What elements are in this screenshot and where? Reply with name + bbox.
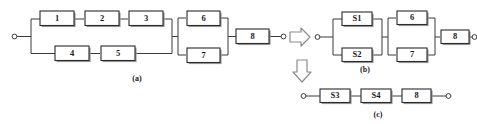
block-a-6[interactable]: 6 [187, 11, 222, 27]
block-c-8-label: 8 [414, 90, 418, 100]
block-a-8-label: 8 [250, 31, 254, 41]
terminal-a-input [12, 34, 17, 39]
down-arrow-icon [293, 60, 311, 82]
block-b-s1[interactable]: S1 [342, 12, 374, 27]
block-a-5[interactable]: 5 [101, 46, 137, 62]
right-arrow-icon [290, 28, 310, 46]
reliability-block-diagram-figure: 1 2 3 4 [0, 0, 477, 124]
block-a-6-label: 6 [201, 13, 205, 23]
block-b-s1-label: S1 [353, 13, 362, 23]
block-c-s3-label: S3 [331, 90, 340, 100]
block-b-8-label: 8 [453, 31, 457, 41]
block-c-s4[interactable]: S4 [361, 89, 393, 104]
caption-c: (c) [374, 110, 383, 119]
terminal-a-output [281, 34, 286, 39]
block-a-4[interactable]: 4 [55, 46, 91, 62]
block-a-2[interactable]: 2 [85, 11, 121, 27]
block-a-7[interactable]: 7 [187, 48, 222, 64]
block-b-6[interactable]: 6 [397, 11, 429, 26]
block-c-s4-label: S4 [372, 90, 382, 100]
block-c-s3[interactable]: S3 [320, 89, 352, 104]
block-a-5-label: 5 [116, 48, 120, 58]
terminal-c-input [301, 94, 306, 99]
block-a-3[interactable]: 3 [129, 11, 165, 27]
diagram-c: S3 S4 8 (c) [301, 89, 451, 119]
block-b-6-label: 6 [410, 12, 414, 22]
block-b-8[interactable]: 8 [441, 30, 471, 45]
block-a-3-label: 3 [144, 13, 148, 23]
block-c-8[interactable]: 8 [402, 89, 433, 104]
block-b-s2-label: S2 [353, 49, 362, 59]
diagram-a: 1 2 3 4 [12, 11, 286, 83]
caption-b: (b) [360, 65, 370, 74]
diagram-b: S1 S2 6 7 [315, 11, 477, 74]
terminal-b-output [472, 35, 477, 40]
block-a-2-label: 2 [100, 13, 104, 23]
caption-a: (a) [132, 74, 142, 83]
block-a-1-label: 1 [55, 13, 59, 23]
terminal-b-input [315, 35, 320, 40]
block-b-s2[interactable]: S2 [342, 48, 374, 63]
block-b-7[interactable]: 7 [397, 48, 429, 63]
block-a-8[interactable]: 8 [236, 29, 271, 45]
terminal-c-output [446, 94, 451, 99]
block-a-1[interactable]: 1 [40, 11, 76, 27]
